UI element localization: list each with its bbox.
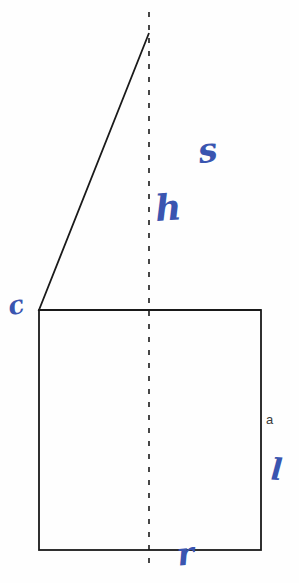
handwritten-annotation-h: h <box>154 188 183 226</box>
geometry-figure: a s h c l r <box>0 0 299 583</box>
handwritten-annotation-r: r <box>175 537 195 571</box>
figure-canvas <box>0 0 299 583</box>
handwritten-annotation-l: l <box>270 455 283 486</box>
side-label-a: a <box>266 413 273 426</box>
